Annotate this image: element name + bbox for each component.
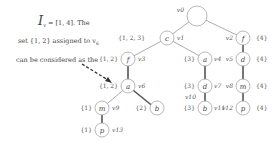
tree-diagram: c f f a d a d m m b b p p {1, 2, 3} {4} … — [0, 0, 277, 155]
svg-text:{1}: {1} — [81, 104, 93, 111]
svg-text:m: m — [240, 83, 247, 91]
svg-text:c: c — [165, 35, 169, 43]
svg-text:v9: v9 — [112, 104, 119, 111]
svg-text:d: d — [203, 83, 208, 91]
svg-text:p: p — [241, 105, 246, 113]
vertex-labels: v0 v1 v2 v3 v4 v5 v6 v7 v8 v9 v10 v11 v1… — [112, 6, 233, 133]
svg-text:{4}: {4} — [256, 55, 268, 62]
svg-text:{3}: {3} — [184, 55, 196, 62]
svg-text:m: m — [99, 105, 106, 113]
svg-text:v4: v4 — [214, 55, 221, 62]
svg-text:{1}: {1} — [81, 126, 93, 133]
svg-text:{1, 2}: {1, 2} — [99, 82, 118, 89]
svg-text:v6: v6 — [138, 82, 145, 89]
svg-text:v1: v1 — [177, 34, 184, 41]
svg-text:v3: v3 — [138, 55, 145, 62]
svg-text:v0: v0 — [177, 6, 184, 13]
svg-text:{1, 2}: {1, 2} — [99, 55, 118, 62]
svg-text:{3}: {3} — [184, 82, 196, 89]
svg-text:b: b — [155, 105, 160, 113]
svg-text:p: p — [100, 127, 105, 135]
svg-text:a: a — [203, 56, 207, 64]
svg-text:v10: v10 — [185, 93, 196, 100]
svg-text:v13: v13 — [112, 126, 123, 133]
svg-text:{4}: {4} — [256, 34, 268, 41]
tree-nodes — [95, 6, 250, 137]
svg-text:a: a — [126, 83, 130, 91]
svg-text:v8: v8 — [226, 82, 233, 89]
svg-text:{2}: {2} — [136, 104, 148, 111]
svg-text:{3}: {3} — [184, 104, 196, 111]
svg-text:{4}: {4} — [256, 104, 268, 111]
svg-text:v7: v7 — [214, 82, 221, 89]
dashed-arrow — [82, 64, 112, 83]
svg-text:{4}: {4} — [256, 82, 268, 89]
svg-text:v5: v5 — [226, 55, 233, 62]
svg-text:v2: v2 — [226, 34, 233, 41]
svg-text:b: b — [203, 105, 208, 113]
svg-text:v12: v12 — [222, 104, 233, 111]
svg-text:d: d — [241, 56, 246, 64]
svg-text:{1, 2, 3}: {1, 2, 3} — [118, 34, 145, 41]
